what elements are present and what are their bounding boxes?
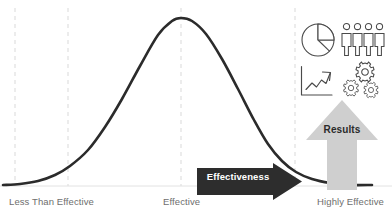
bell-curve-infographic: Less Than Effective Effective Highly Eff… bbox=[0, 0, 392, 219]
trend-up-chart-icon bbox=[299, 64, 337, 102]
axis-label-highly-effective: Highly Effective bbox=[317, 196, 384, 208]
results-up-arrow bbox=[306, 100, 378, 190]
axis-label-less-than-effective: Less Than Effective bbox=[9, 196, 94, 208]
results-label: Results bbox=[306, 124, 378, 135]
chart-gridlines bbox=[15, 8, 295, 186]
pie-chart-icon bbox=[299, 20, 339, 60]
gears-icon bbox=[341, 61, 387, 103]
results-arrow-shape bbox=[306, 100, 378, 190]
people-group-icon bbox=[340, 21, 388, 57]
axis-label-effective: Effective bbox=[163, 196, 200, 208]
effectiveness-label: Effectiveness bbox=[203, 171, 273, 182]
